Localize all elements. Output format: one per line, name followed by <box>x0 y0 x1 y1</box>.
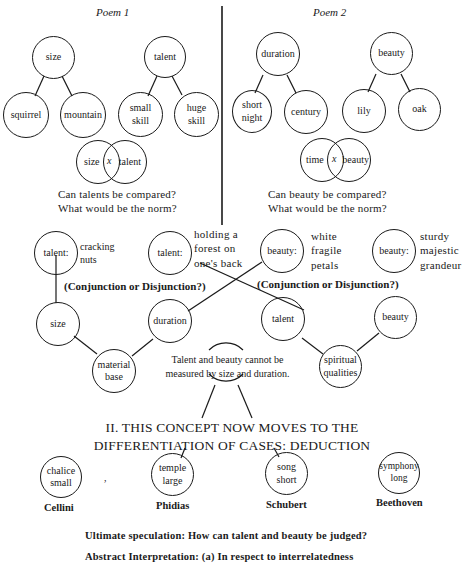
node-label: talent <box>119 156 141 169</box>
node-beauty-grandeur: beauty: <box>372 229 416 273</box>
node-duration-lower: duration <box>148 299 192 343</box>
node-talent-lower: talent <box>261 297 305 341</box>
node-label: squirrel <box>11 109 42 122</box>
node-label: song short <box>277 461 297 486</box>
conjunction-label-left: (Conjunction or Disjunction?) <box>64 280 206 293</box>
node-small-skill: small skill <box>118 92 163 137</box>
artist-beethoven: Beethoven <box>376 497 423 509</box>
node-label: talent <box>272 313 294 326</box>
artist-schubert: Schubert <box>266 499 307 511</box>
conjunction-label-right: (Conjunction or Disjunction?) <box>257 278 399 291</box>
node-oak: oak <box>398 88 441 131</box>
node-beauty-petals: beauty: <box>260 229 304 273</box>
node-label: beauty <box>382 311 409 324</box>
node-talent-forest: talent: <box>148 231 192 275</box>
node-label: chalice small <box>47 465 75 490</box>
note-holding-forest: holding a forest on one's back <box>194 227 243 270</box>
node-short-night: short night <box>232 90 272 133</box>
poem-2-question-2: What would be the norm? <box>268 202 387 215</box>
poem-1-question-2: What would be the norm? <box>58 202 177 215</box>
node-label: spiritual qualities <box>324 354 358 379</box>
node-label: oak <box>412 103 426 116</box>
node-huge-skill: huge skill <box>174 92 219 137</box>
node-label: duration <box>153 315 186 328</box>
node-label: beauty: <box>379 245 408 258</box>
poem-1-title: Poem 1 <box>96 6 129 19</box>
note-white-fragile-petals: white fragile petals <box>311 229 342 272</box>
note-sturdy-majestic-grandeur: sturdy majestic grandeur <box>420 229 462 272</box>
node-label: beauty <box>378 47 405 60</box>
venn-intersection-x: x <box>107 155 111 167</box>
node-century: century <box>284 90 328 134</box>
artist-phidias: Phidias <box>156 500 189 512</box>
node-label: short night <box>242 99 263 124</box>
node-label: time <box>306 154 324 167</box>
node-label: talent: <box>44 247 69 260</box>
node-label: duration <box>261 48 294 61</box>
node-material-base: material base <box>92 349 136 393</box>
node-song-short: song short <box>265 452 308 495</box>
center-conclusion-note: Talent and beauty cannot be measured by … <box>165 353 290 380</box>
node-lily: lily <box>342 89 386 133</box>
node-talent: talent <box>144 36 186 78</box>
section-heading: II. THIS CONCEPT NOW MOVES TO THE DIFFER… <box>62 419 402 454</box>
node-label: beauty <box>342 154 369 167</box>
node-label: talent <box>154 51 176 64</box>
node-size-lower: size <box>36 302 80 346</box>
node-label: size <box>50 318 66 331</box>
note-cracking-nuts: cracking nuts <box>80 240 114 266</box>
venn-intersection-x: x <box>332 153 336 165</box>
node-label: talent: <box>158 247 183 260</box>
stray-mark: , <box>104 472 107 484</box>
node-chalice-small: chalice small <box>40 456 82 498</box>
node-size: size <box>32 36 75 79</box>
artist-cellini: Cellini <box>44 502 74 514</box>
node-temple-large: temple large <box>151 453 194 496</box>
node-label: huge skill <box>187 102 206 127</box>
ultimate-speculation: Ultimate speculation: How can talent and… <box>85 530 367 542</box>
node-mountain: mountain <box>60 92 106 138</box>
poem-2-title: Poem 2 <box>313 6 346 19</box>
node-duration: duration <box>256 32 300 76</box>
node-talent-cracking-nuts: talent: <box>34 231 78 275</box>
node-label: small skill <box>130 102 152 127</box>
node-label: size <box>84 156 100 169</box>
node-spiritual-qualities: spiritual qualities <box>319 345 362 388</box>
poem-1-question-1: Can talents be compared? <box>58 188 176 201</box>
node-label: temple large <box>159 462 186 487</box>
node-label: century <box>291 106 321 119</box>
node-label: symphony long <box>379 461 419 485</box>
node-label: lily <box>357 105 370 118</box>
node-label: size <box>46 51 62 64</box>
node-beauty: beauty <box>370 32 413 75</box>
node-label: beauty: <box>267 245 296 258</box>
poem-2-question-1: Can beauty be compared? <box>268 188 387 201</box>
node-symphony-long: symphony long <box>378 452 420 494</box>
node-label: material base <box>98 359 131 384</box>
abstract-interpretation: Abstract Interpretation: (a) In respect … <box>85 551 353 563</box>
node-squirrel: squirrel <box>3 92 49 138</box>
node-beauty-lower: beauty <box>374 296 417 339</box>
node-label: mountain <box>64 109 102 122</box>
